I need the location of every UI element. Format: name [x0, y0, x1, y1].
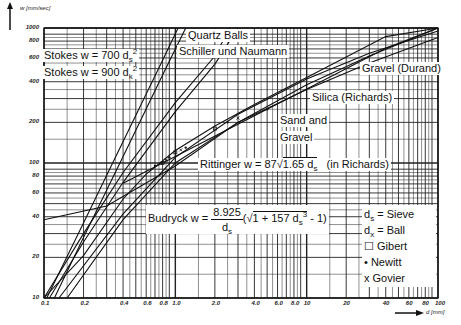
- y-tick-label: 20: [32, 253, 39, 259]
- budryck-fraction: 8.925 ds: [211, 205, 243, 234]
- x-tick-label: 2.0: [212, 300, 220, 306]
- x-tick-label: 1.0: [172, 300, 180, 306]
- x-axis-label: d [mm]: [426, 309, 444, 315]
- label-rittinger: Rittinger w = 87√1.65 ds (in Richards): [198, 158, 391, 171]
- x-tick-label: 40: [383, 300, 390, 306]
- x-tick-label: 0.4: [120, 300, 128, 306]
- x-tick-label: 10: [304, 300, 311, 306]
- x-tick-label: 20: [343, 300, 350, 306]
- label-quartz-balls: Quartz Balls: [186, 29, 250, 42]
- x-tick-label: 0.1: [41, 300, 49, 306]
- legend-dx: dx = Ball: [364, 222, 434, 238]
- label-schiller-naumann: Schiller und Naumann: [177, 45, 289, 58]
- label-gravel: Gravel: [278, 131, 314, 144]
- x-tick-label: 6.0: [275, 300, 283, 306]
- y-axis-label: w [mm/sec]: [20, 5, 50, 11]
- y-tick-label: 800: [29, 37, 39, 43]
- y-tick-label: 60: [32, 189, 39, 195]
- label-stokes-700: Stokes w = 700 ds2: [42, 49, 139, 62]
- y-tick-label: 80: [32, 172, 39, 178]
- label-sand-and: Sand and: [278, 114, 329, 127]
- x-tick-label: 0.2: [81, 300, 89, 306]
- y-tick-label: 400: [29, 78, 39, 84]
- x-tick-label: 80: [422, 300, 429, 306]
- x-tick-label: 100: [435, 300, 445, 306]
- y-tick-label: 10: [32, 294, 39, 300]
- dot-marker-icon: •: [364, 256, 368, 268]
- label-stokes-900: Stokes w = 900 dk2: [42, 66, 139, 79]
- x-marker-icon: x: [364, 272, 370, 284]
- y-axis-arrow: [7, 2, 13, 30]
- x-tick-label: 4.0: [251, 300, 259, 306]
- x-tick-label: 8.0: [291, 300, 299, 306]
- legend-govier: x Govier: [364, 270, 434, 286]
- x-axis-arrow: [395, 310, 424, 316]
- y-tick-label: 40: [32, 213, 39, 219]
- y-tick-label: 1000: [26, 24, 39, 30]
- legend: ds = Sieve dx = Ball ☐ Gibert • Newitt x…: [362, 205, 436, 287]
- x-tick-label: 0.8: [160, 300, 168, 306]
- label-gravel-durand: Gravel (Durand): [360, 62, 443, 75]
- x-tick-label: 0.6: [143, 300, 151, 306]
- legend-gibert: ☐ Gibert: [364, 238, 434, 254]
- y-tick-label: 600: [29, 54, 39, 60]
- label-silica-richards: Silica (Richards): [310, 91, 394, 104]
- legend-ds: ds = Sieve: [364, 206, 434, 222]
- y-tick-label: 200: [29, 118, 39, 124]
- x-tick-label: 60: [406, 300, 413, 306]
- label-budryck: Budryck w = 8.925 ds (√1 + 157 ds3 - 1): [146, 205, 329, 234]
- y-tick-label: 100: [29, 159, 39, 165]
- legend-newitt: • Newitt: [364, 254, 434, 270]
- square-marker-icon: ☐: [364, 240, 374, 252]
